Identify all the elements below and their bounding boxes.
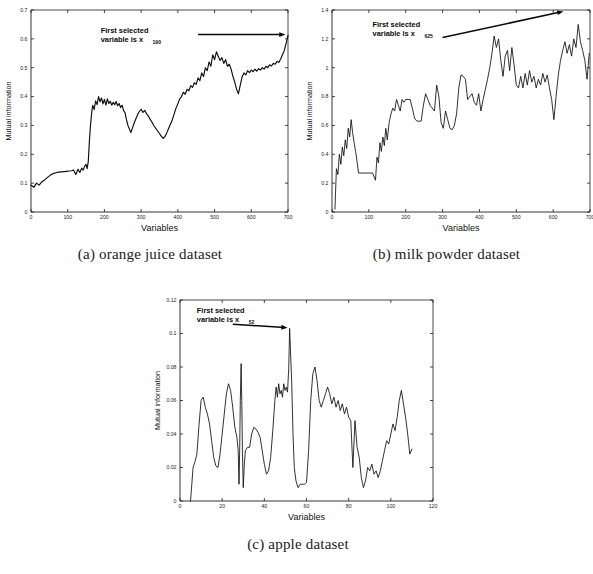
y-tick-label: 0.6	[321, 122, 328, 128]
annotation-line-2: variable is x	[101, 35, 144, 44]
x-tick-label: 600	[549, 214, 558, 220]
axes-b	[332, 10, 590, 212]
panel-orange-juice: 00.10.20.30.40.50.60.7010020030040050060…	[0, 0, 300, 263]
y-tick-label: 0.2	[20, 151, 27, 157]
axis-frame	[180, 300, 433, 501]
y-axis-title-a: Mutual information	[4, 81, 13, 140]
x-tick-label: 20	[219, 503, 225, 509]
y-tick-label: 0	[174, 498, 177, 504]
y-tick-label: 1.2	[321, 36, 328, 42]
annotation-subscript: 625	[424, 33, 433, 39]
y-tick-label: 1.4	[321, 7, 328, 13]
x-tick-label: 700	[284, 214, 293, 220]
x-tick-label: 400	[475, 214, 484, 220]
chart-c-svg: 00.020.040.060.080.10.12020406080100120 …	[148, 288, 448, 528]
annotation-arrow-shaft	[443, 12, 561, 37]
annotation-subscript: 52	[249, 319, 255, 325]
y-axis-title-c: Mutual information	[153, 371, 162, 430]
y-tick-label: 0.2	[321, 180, 328, 186]
x-tick-label: 0	[179, 503, 182, 509]
data-curve-c	[191, 328, 412, 501]
x-tick-label: 0	[30, 214, 33, 220]
panel-apple: 00.020.040.060.080.10.12020406080100120 …	[148, 288, 448, 553]
data-curve-b	[335, 24, 589, 209]
annotation-b: First selectedvariable is x625	[373, 10, 564, 39]
figure-container: 00.10.20.30.40.50.60.7010020030040050060…	[0, 0, 593, 574]
annotation-subscript: 190	[153, 39, 162, 45]
x-tick-label: 60	[304, 503, 310, 509]
plot-area-a: 00.10.20.30.40.50.60.7010020030040050060…	[0, 0, 300, 236]
plot-area-c: 00.020.040.060.080.10.12020406080100120 …	[148, 288, 448, 528]
y-tick-label: 0.02	[166, 464, 176, 470]
x-tick-label: 100	[63, 214, 72, 220]
y-tick-label: 0.5	[20, 65, 27, 71]
x-tick-label: 500	[210, 214, 219, 220]
annotation-line-2: variable is x	[197, 315, 240, 324]
x-tick-label: 300	[438, 214, 447, 220]
y-tick-label: 0.3	[20, 122, 27, 128]
x-axis-title-c: Variables	[288, 512, 325, 522]
annotation-line-2: variable is x	[373, 29, 416, 38]
annotation-c: First selectedvariable is x52	[197, 306, 288, 329]
y-tick-label: 0.8	[321, 93, 328, 99]
x-tick-label: 100	[387, 503, 396, 509]
x-axis-title-b: Variables	[443, 223, 480, 233]
x-axis-title-a: Variables	[141, 223, 178, 233]
y-tick-label: 0.08	[166, 364, 176, 370]
caption-panel-b: (b) milk powder dataset	[300, 246, 593, 263]
y-tick-label: 0	[326, 209, 329, 215]
caption-panel-c: (c) apple dataset	[148, 536, 448, 553]
plot-area-b: 00.20.40.60.811.21.401002003004005006007…	[300, 0, 593, 236]
x-tick-label: 40	[261, 503, 267, 509]
x-tick-label: 500	[512, 214, 521, 220]
annotation-a: First selectedvariable is x190	[101, 26, 286, 45]
y-tick-label: 0.7	[20, 7, 27, 13]
x-tick-label: 200	[100, 214, 109, 220]
annotation-arrow-head	[557, 10, 564, 15]
y-tick-label: 0.6	[20, 36, 27, 42]
y-tick-label: 0.4	[20, 93, 27, 99]
x-tick-label: 100	[365, 214, 374, 220]
x-tick-label: 300	[137, 214, 146, 220]
annotation-arrow-shaft	[233, 324, 285, 327]
y-tick-label: 0.04	[166, 431, 176, 437]
y-tick-label: 0	[25, 209, 28, 215]
y-tick-label: 0.12	[166, 297, 176, 303]
x-tick-label: 120	[429, 503, 438, 509]
annotation-arrow-head	[281, 325, 287, 330]
tick-labels-c: 00.020.040.060.080.10.12020406080100120	[166, 297, 437, 509]
y-tick-label: 0.06	[166, 397, 176, 403]
chart-b-svg: 00.20.40.60.811.21.401002003004005006007…	[300, 0, 593, 236]
annotation-arrow-head	[279, 32, 285, 37]
y-tick-label: 0.1	[169, 330, 176, 336]
axes-c	[180, 300, 433, 501]
x-tick-label: 0	[331, 214, 334, 220]
panel-milk-powder: 00.20.40.60.811.21.401002003004005006007…	[300, 0, 593, 263]
x-tick-label: 80	[346, 503, 352, 509]
x-tick-label: 400	[174, 214, 183, 220]
y-tick-label: 0.4	[321, 151, 328, 157]
chart-a-svg: 00.10.20.30.40.50.60.7010020030040050060…	[0, 0, 300, 236]
x-tick-label: 700	[586, 214, 593, 220]
tick-labels-b: 00.20.40.60.811.21.401002003004005006007…	[321, 7, 593, 220]
y-tick-label: 1	[326, 65, 329, 71]
x-tick-label: 200	[401, 214, 410, 220]
axis-frame	[332, 10, 590, 212]
caption-panel-a: (a) orange juice dataset	[0, 246, 300, 263]
x-tick-label: 600	[247, 214, 256, 220]
y-tick-label: 0.1	[20, 180, 27, 186]
y-axis-title-b: Mutual information	[305, 81, 314, 140]
data-curve-a	[31, 35, 288, 187]
